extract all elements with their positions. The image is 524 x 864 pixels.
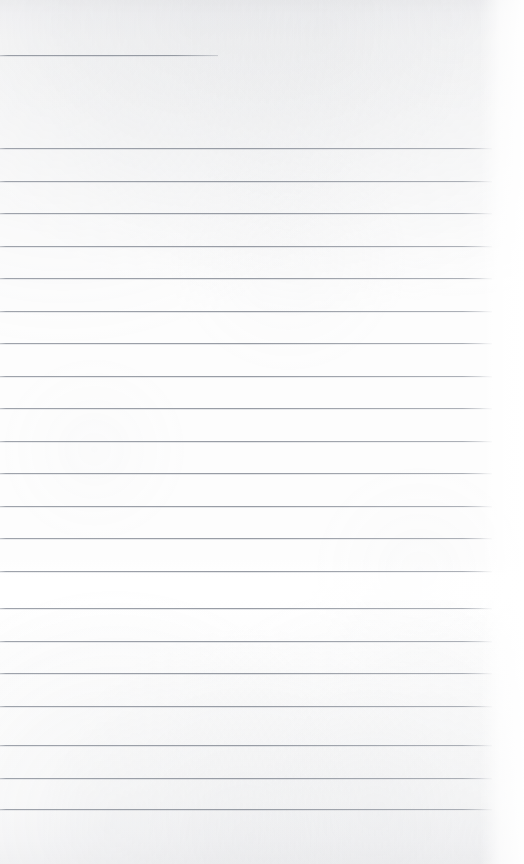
notepad-page xyxy=(0,0,524,864)
rule-line xyxy=(0,809,492,810)
page-content-area[interactable] xyxy=(0,148,492,809)
header-rule xyxy=(0,55,218,56)
